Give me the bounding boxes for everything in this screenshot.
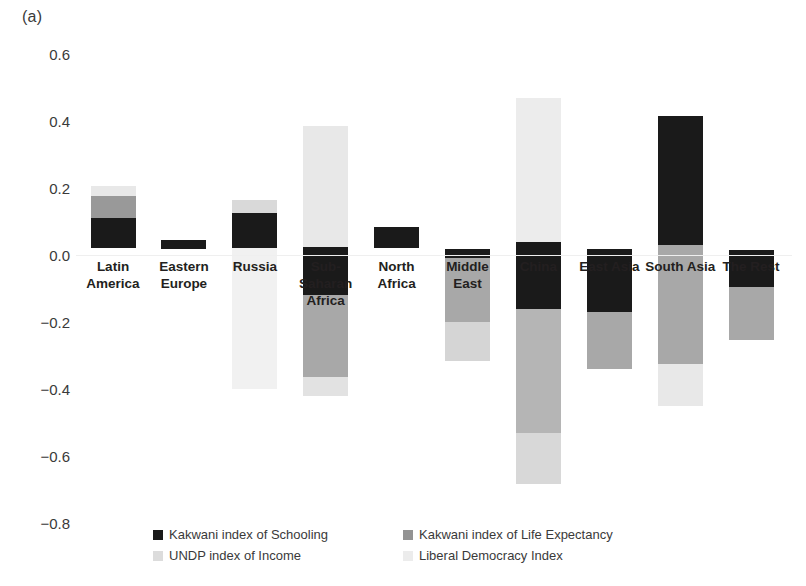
chart-legend: Kakwani index of Schooling Kakwani index… xyxy=(0,527,806,569)
bar-segment xyxy=(91,196,136,218)
y-axis-tick-label: 0.6 xyxy=(20,46,70,63)
legend-swatch-schooling xyxy=(153,530,163,540)
bar-segment xyxy=(303,126,348,247)
y-axis-tick-label: 0.2 xyxy=(20,180,70,197)
bar-group xyxy=(445,0,490,586)
bar-segment xyxy=(303,295,348,377)
bar-group xyxy=(658,0,703,586)
bar-group xyxy=(516,0,561,586)
bar-segment xyxy=(658,116,703,245)
bar-group xyxy=(374,0,419,586)
bar-segment xyxy=(516,433,561,485)
bar-segment xyxy=(232,248,277,389)
bar-segment xyxy=(516,98,561,242)
bar-segment xyxy=(658,245,703,364)
bar-segment xyxy=(303,377,348,395)
bar-segment xyxy=(516,309,561,433)
y-axis-tick-label: 0.0 xyxy=(20,247,70,264)
bar-segment xyxy=(516,242,561,309)
legend-item-income: UNDP index of Income xyxy=(153,548,403,563)
legend-row-1: Kakwani index of Schooling Kakwani index… xyxy=(0,527,806,542)
bar-segment xyxy=(587,249,632,312)
legend-label-life-expectancy: Kakwani index of Life Expectancy xyxy=(419,527,613,542)
y-axis-tick-label: −0.2 xyxy=(20,314,70,331)
bar-group xyxy=(232,0,277,586)
legend-swatch-life-expectancy xyxy=(403,530,413,540)
bar-segment xyxy=(303,247,348,296)
bar-group xyxy=(729,0,774,586)
bar-segment xyxy=(587,312,632,369)
y-axis-tick-label: 0.4 xyxy=(20,113,70,130)
bar-group xyxy=(587,0,632,586)
bar-segment xyxy=(232,213,277,248)
zero-gridline xyxy=(76,255,792,256)
legend-row-2: UNDP index of Income Liberal Democracy I… xyxy=(0,548,806,563)
bar-segment xyxy=(445,258,490,322)
y-axis-tick-label: −0.6 xyxy=(20,448,70,465)
bar-segment xyxy=(161,240,206,249)
legend-swatch-democracy xyxy=(403,551,413,561)
legend-item-schooling: Kakwani index of Schooling xyxy=(153,527,403,542)
legend-item-democracy: Liberal Democracy Index xyxy=(403,548,653,563)
bar-segment xyxy=(91,186,136,196)
y-axis-ticks: 0.60.40.20.0−0.2−0.4−0.6−0.8 xyxy=(18,0,70,586)
bar-segment xyxy=(729,287,774,341)
bar-segment xyxy=(232,200,277,213)
legend-label-income: UNDP index of Income xyxy=(169,548,301,563)
bar-segment xyxy=(91,218,136,248)
legend-item-life-expectancy: Kakwani index of Life Expectancy xyxy=(403,527,653,542)
chart-plot-area: 0.60.40.20.0−0.2−0.4−0.6−0.8 LatinAmeric… xyxy=(0,0,806,586)
bar-group xyxy=(161,0,206,586)
bar-segment xyxy=(445,249,490,258)
bar-segment xyxy=(658,364,703,406)
legend-swatch-income xyxy=(153,551,163,561)
bar-segment xyxy=(445,322,490,361)
bar-group xyxy=(303,0,348,586)
bar-group xyxy=(91,0,136,586)
legend-label-democracy: Liberal Democracy Index xyxy=(419,548,563,563)
bar-segment xyxy=(374,227,419,249)
y-axis-tick-label: −0.4 xyxy=(20,381,70,398)
legend-label-schooling: Kakwani index of Schooling xyxy=(169,527,328,542)
